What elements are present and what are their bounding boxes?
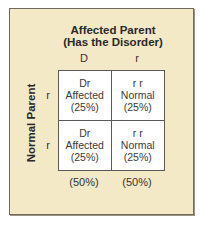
cell-genotype: Dr xyxy=(79,77,90,89)
row-allele-r-1: r xyxy=(42,89,54,101)
cell-phenotype: Affected xyxy=(66,89,104,101)
cell-phenotype: Normal xyxy=(121,139,155,151)
cell-percent: (25%) xyxy=(124,151,152,163)
cell-normal-top-right: r r Normal (25%) xyxy=(112,71,165,121)
cell-normal-bottom-right: r r Normal (25%) xyxy=(112,121,165,171)
normal-parent-label: Normal Parent xyxy=(24,82,38,164)
column-allele-r: r xyxy=(111,52,163,64)
affected-parent-title: Affected Parent xyxy=(58,24,168,36)
cell-phenotype: Affected xyxy=(66,139,104,151)
cell-affected-top-left: Dr Affected (25%) xyxy=(59,71,112,121)
cell-percent: (25%) xyxy=(71,101,99,113)
column-allele-d: D xyxy=(58,52,110,64)
cell-percent: (25%) xyxy=(71,151,99,163)
column-total-r: (50%) xyxy=(111,176,163,188)
cell-genotype: r r xyxy=(133,77,143,89)
row-allele-r-2: r xyxy=(42,139,54,151)
normal-parent-label-text: Normal Parent xyxy=(25,84,37,163)
column-total-d: (50%) xyxy=(58,176,110,188)
cell-genotype: Dr xyxy=(79,127,90,139)
cell-genotype: r r xyxy=(133,127,143,139)
cell-percent: (25%) xyxy=(124,101,152,113)
cell-phenotype: Normal xyxy=(121,89,155,101)
affected-parent-subtitle: (Has the Disorder) xyxy=(58,36,168,48)
cell-affected-bottom-left: Dr Affected (25%) xyxy=(59,121,112,171)
punnett-grid: Dr Affected (25%) r r Normal (25%) Dr Af… xyxy=(58,70,165,171)
